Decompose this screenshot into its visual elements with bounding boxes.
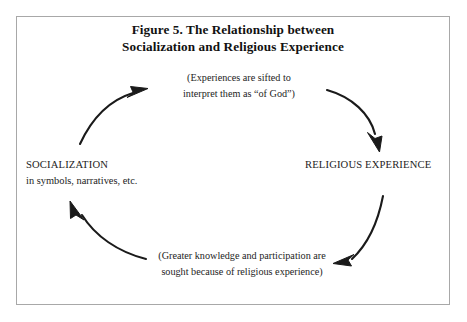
caption-top-line-2: interpret them as “of God”) [116, 86, 362, 102]
caption-bottom-line-2: sought because of religious experience) [116, 264, 368, 280]
socialization-heading: SOCIALIZATION [26, 157, 137, 173]
socialization-subtext: in symbols, narratives, etc. [26, 173, 137, 189]
caption-top: (Experiences are sifted to interpret the… [116, 70, 362, 101]
figure-canvas: Figure 5. The Relationship between Socia… [0, 0, 467, 322]
node-label-socialization: SOCIALIZATION in symbols, narratives, et… [26, 157, 137, 189]
figure-title: Figure 5. The Relationship between Socia… [16, 22, 450, 55]
religious-experience-heading: RELIGIOUS EXPERIENCE [305, 159, 431, 170]
node-label-religious-experience: RELIGIOUS EXPERIENCE [305, 157, 431, 173]
caption-bottom-line-1: (Greater knowledge and participation are [116, 248, 368, 264]
caption-bottom: (Greater knowledge and participation are… [116, 248, 368, 279]
figure-title-line-2: Socialization and Religious Experience [16, 39, 450, 56]
caption-top-line-1: (Experiences are sifted to [116, 70, 362, 86]
figure-title-line-1: Figure 5. The Relationship between [16, 22, 450, 39]
